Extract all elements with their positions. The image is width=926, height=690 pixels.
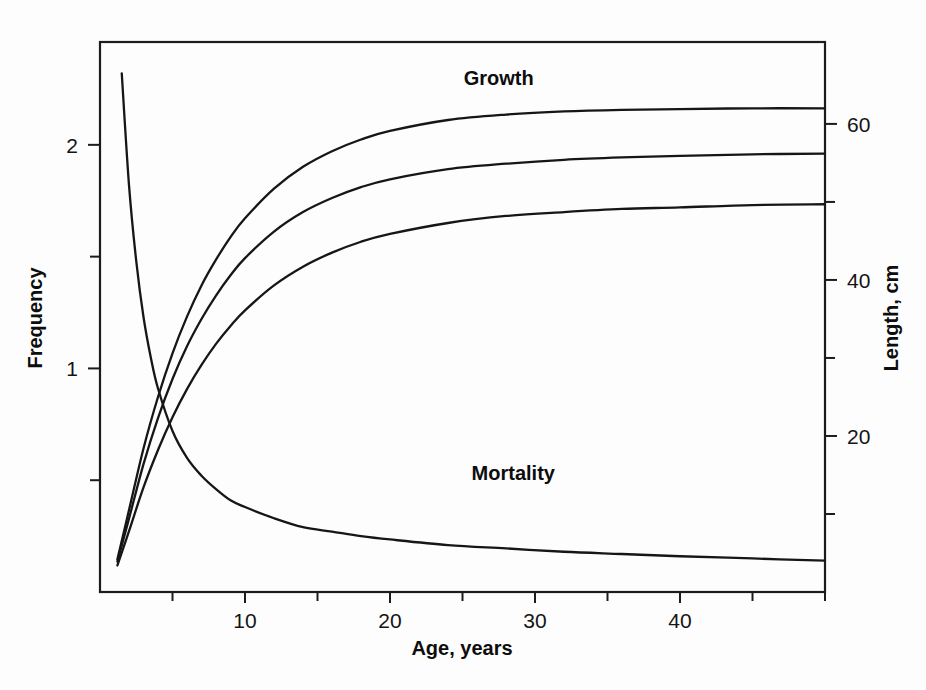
data-curves [117, 73, 825, 565]
curve-growth-2 [117, 204, 825, 565]
curve-growth-1 [117, 154, 825, 562]
curve-mortality-3 [122, 73, 825, 560]
chart-canvas: 10203040 12 204060 Age, years Frequency … [0, 0, 926, 690]
plot-frame [100, 42, 825, 592]
y-tick-label: 2 [66, 134, 78, 157]
y-tick-label: 1 [66, 357, 78, 380]
y-axis-ticks: 12 [66, 134, 100, 480]
x-axis-title: Age, years [411, 637, 512, 659]
growth-series-label: Growth [464, 67, 534, 89]
y2-axis-ticks: 204060 [825, 113, 870, 514]
mortality-series-label: Mortality [472, 462, 556, 484]
y2-tick-label: 20 [847, 425, 870, 448]
figure-container: 10203040 12 204060 Age, years Frequency … [0, 0, 926, 690]
x-tick-label: 10 [233, 609, 256, 632]
x-tick-label: 20 [378, 609, 401, 632]
y2-tick-label: 60 [847, 113, 870, 136]
x-tick-label: 30 [523, 609, 546, 632]
x-axis-ticks: 10203040 [173, 592, 826, 632]
y-axis-title: Frequency [24, 267, 46, 369]
y2-tick-label: 40 [847, 269, 870, 292]
x-tick-label: 40 [668, 609, 691, 632]
y2-axis-title: Length, cm [880, 265, 902, 372]
